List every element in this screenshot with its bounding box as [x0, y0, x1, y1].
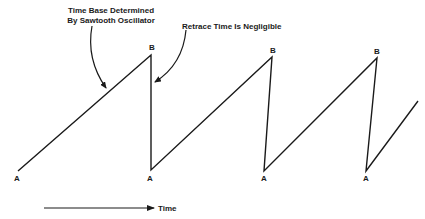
- point-label-a4: A: [363, 174, 369, 183]
- retrace-annotation: Retrace Time Is Negligible: [182, 22, 282, 31]
- time-axis-label: Time: [158, 204, 177, 213]
- point-label-a2: A: [147, 174, 153, 183]
- retrace-pointer-arrow: [155, 30, 186, 82]
- point-label-b2: B: [270, 46, 276, 55]
- time-base-pointer-arrow: [91, 26, 106, 88]
- point-label-b1: B: [149, 43, 155, 52]
- sawtooth-diagram: Time Base Determined By Sawtooth Oscilla…: [0, 0, 425, 219]
- time-base-annotation-line1: Time Base Determined: [68, 6, 154, 15]
- point-label-a3: A: [261, 174, 267, 183]
- point-label-b3: B: [374, 47, 380, 56]
- point-label-a1: A: [14, 174, 20, 183]
- sawtooth-waveform: [18, 55, 418, 171]
- time-base-annotation-line2: By Sawtooth Oscillator: [67, 16, 155, 25]
